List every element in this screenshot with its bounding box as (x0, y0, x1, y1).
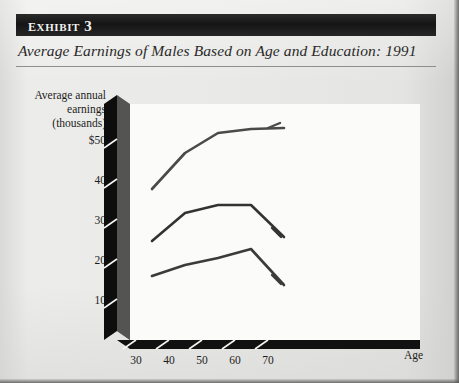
axis-wall-3d (117, 95, 130, 340)
plot-area (0, 0, 459, 383)
earnings-by-age-education-chart: Average annual earnings (thousands) Age … (0, 0, 459, 383)
